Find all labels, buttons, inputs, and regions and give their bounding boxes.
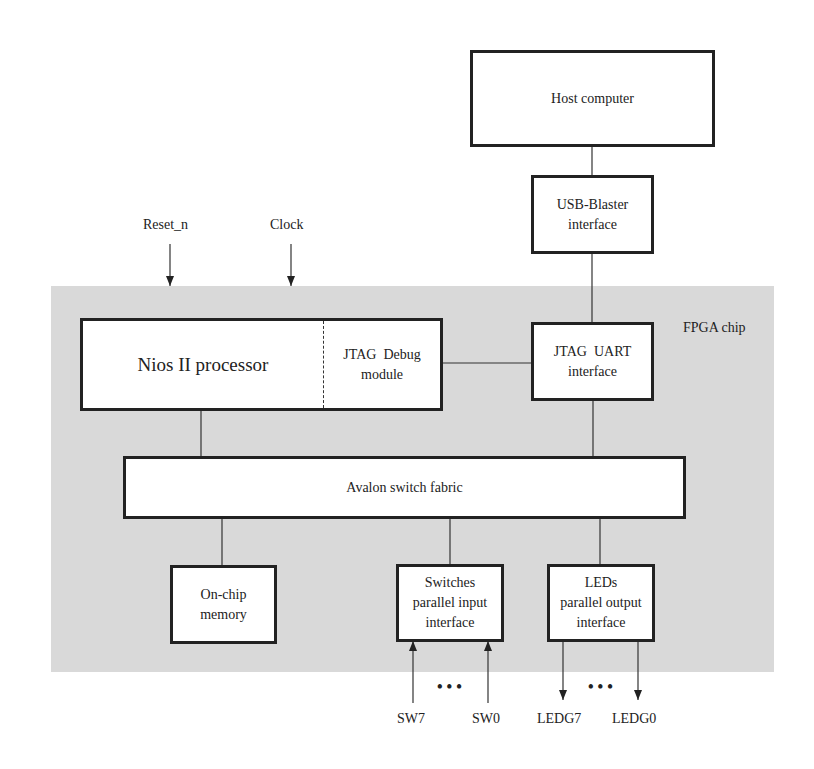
leds-label-line1: LEDs xyxy=(585,573,618,593)
leds-label-line3: interface xyxy=(577,613,626,633)
jtag-debug-module: JTAG Debug module xyxy=(324,321,440,408)
reset-signal-label: Reset_n xyxy=(143,217,188,233)
leds-interface-block: LEDs parallel output interface xyxy=(547,564,655,642)
avalon-switch-fabric-block: Avalon switch fabric xyxy=(123,456,686,519)
jtag-debug-label-line2: module xyxy=(361,365,403,385)
usb-blaster-label-line2: interface xyxy=(568,215,617,235)
ledg0-label: LEDG0 xyxy=(612,711,656,727)
nios-ii-processor-block: Nios II processor JTAG Debug module xyxy=(80,318,443,411)
usb-blaster-label-line1: USB-Blaster xyxy=(557,195,629,215)
sw7-label: SW7 xyxy=(397,711,425,727)
led-ellipsis: ••• xyxy=(588,678,617,696)
fpga-chip-label: FPGA chip xyxy=(683,320,746,336)
on-chip-memory-block: On-chip memory xyxy=(170,565,277,644)
switches-label-line3: interface xyxy=(426,613,475,633)
host-computer-block: Host computer xyxy=(470,50,715,147)
sw0-label: SW0 xyxy=(472,711,500,727)
jtag-uart-block: JTAG UART interface xyxy=(531,322,654,401)
ledg7-label: LEDG7 xyxy=(537,711,581,727)
jtag-debug-label-line1: JTAG Debug xyxy=(343,345,420,365)
switches-label-line2: parallel input xyxy=(413,593,487,613)
switch-ellipsis: ••• xyxy=(437,678,466,696)
avalon-switch-fabric-label: Avalon switch fabric xyxy=(346,478,462,498)
nios-ii-processor-label: Nios II processor xyxy=(83,321,323,408)
switches-label-line1: Switches xyxy=(425,573,476,593)
usb-blaster-block: USB-Blaster interface xyxy=(531,175,654,254)
leds-label-line2: parallel output xyxy=(560,593,641,613)
switches-interface-block: Switches parallel input interface xyxy=(396,564,504,642)
on-chip-memory-label-line1: On-chip xyxy=(201,585,247,605)
clock-signal-label: Clock xyxy=(270,217,303,233)
jtag-uart-label-line2: interface xyxy=(568,362,617,382)
jtag-uart-label-line1: JTAG UART xyxy=(554,342,631,362)
on-chip-memory-label-line2: memory xyxy=(200,605,247,625)
host-computer-label: Host computer xyxy=(551,89,634,109)
